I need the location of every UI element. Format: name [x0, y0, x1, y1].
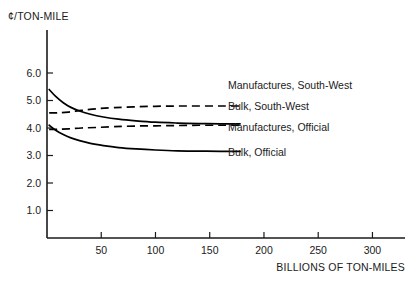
y-tick-label: 1.0	[26, 204, 41, 216]
y-tick-label: 4.0	[26, 122, 41, 134]
series-label-bulk-official: Bulk, Official	[228, 146, 286, 158]
series-curve-bulk-south-west	[49, 125, 240, 129]
x-tick-label: 150	[201, 244, 219, 256]
chart-series-group	[49, 90, 240, 152]
series-curve-bulk-official	[49, 125, 240, 151]
y-tick-label: 2.0	[26, 177, 41, 189]
series-label-manufactures-south-west: Manufactures, South-West	[228, 79, 352, 91]
series-label-manufactures-official: Manufactures, Official	[228, 121, 329, 133]
x-tick-label: 50	[95, 244, 107, 256]
chart-figure: ¢/TON-MILE 1.02.03.04.05.06.0 5010015020…	[0, 0, 419, 285]
y-tick-label: 3.0	[26, 149, 41, 161]
series-label-bulk-south-west: Bulk, South-West	[228, 100, 309, 112]
x-tick-label: 250	[309, 244, 327, 256]
x-axis-ticks: 50100150200250300	[95, 232, 381, 256]
y-tick-label: 6.0	[26, 67, 41, 79]
x-tick-label: 300	[364, 244, 382, 256]
y-axis-title: ¢/TON-MILE	[8, 10, 69, 22]
chart-canvas: ¢/TON-MILE 1.02.03.04.05.06.0 5010015020…	[0, 0, 419, 285]
x-tick-label: 100	[147, 244, 165, 256]
y-tick-label: 5.0	[26, 94, 41, 106]
x-tick-label: 200	[255, 244, 273, 256]
x-axis-title: BILLIONS OF TON-MILES	[276, 261, 405, 273]
